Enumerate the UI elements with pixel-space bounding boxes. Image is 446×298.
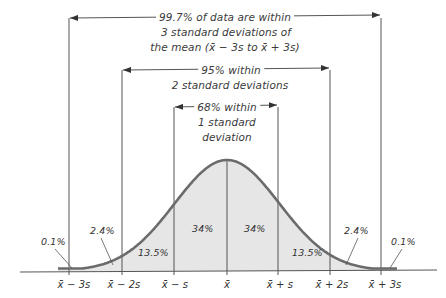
region-label-right-tail: 0.1% — [391, 235, 416, 248]
bracket-3sd-label-line3: the mean (x̄ − 3s to x̄ + 3s) — [150, 41, 299, 54]
bracket-3sd-label-line1: 99.7% of data are within — [156, 11, 294, 24]
empirical-rule-diagram: 99.7% of data are within 3 standard devi… — [0, 0, 446, 298]
axis-label-minus-3s: x̄ − 3s — [58, 278, 91, 291]
axis-label-minus-2s: x̄ − 2s — [108, 278, 141, 291]
axis-label-mean: x̄ — [224, 278, 230, 291]
region-label-right-2to3: 2.4% — [344, 224, 369, 237]
region-label-left-0to1: 34% — [192, 222, 213, 235]
bracket-3sd-label-line2: 3 standard deviations of — [161, 26, 291, 39]
bracket-2sd-label-line2: 2 standard deviations — [172, 79, 289, 92]
axis-label-plus-2s: x̄ + 2s — [316, 278, 349, 291]
region-label-left-1to2: 13.5% — [138, 246, 169, 259]
bracket-1sd-label-line2: 1 standard — [198, 116, 256, 129]
region-label-right-1to2: 13.5% — [292, 246, 323, 259]
bracket-2sd-label-line1: 95% within — [198, 64, 264, 77]
axis-label-plus-s: x̄ + s — [267, 278, 293, 291]
bracket-1sd-label-line1: 68% within — [194, 101, 260, 114]
region-label-left-2to3: 2.4% — [90, 224, 115, 237]
axis-label-plus-3s: x̄ + 3s — [369, 278, 402, 291]
region-label-left-tail: 0.1% — [41, 235, 66, 248]
bracket-1sd-label-line3: deviation — [202, 131, 252, 144]
axis-label-minus-s: x̄ − s — [162, 278, 188, 291]
region-label-right-0to1: 34% — [244, 222, 265, 235]
